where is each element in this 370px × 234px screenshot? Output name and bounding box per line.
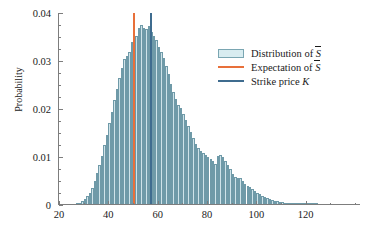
chart-legend: Distribution of S Expectation of S Strik… (218, 46, 321, 88)
x-tick-minor (281, 203, 282, 205)
x-tick-minor (133, 203, 134, 205)
x-tick-label: 40 (103, 209, 114, 220)
y-tick-label: 0.02 (33, 104, 51, 115)
histogram-bars (59, 13, 360, 205)
x-tick (158, 201, 159, 205)
legend-item-strike: Strike price K (218, 74, 321, 88)
y-tick (59, 205, 63, 206)
x-tick (306, 201, 307, 205)
histogram-figure: Probability 20406080100120 00.010.020.03… (0, 0, 370, 234)
y-tick-minor (59, 193, 61, 194)
y-tick-minor (59, 97, 61, 98)
y-tick-label: 0.03 (33, 56, 51, 67)
x-tick-minor (182, 203, 183, 205)
y-tick (59, 61, 63, 62)
y-axis-label: Probability (13, 40, 24, 140)
y-tick-minor (59, 145, 61, 146)
legend-swatch-expectation (218, 66, 244, 68)
y-tick (59, 109, 63, 110)
x-tick-label: 80 (202, 209, 213, 220)
y-tick-label: 0.04 (33, 8, 51, 19)
x-axis-line (58, 204, 360, 205)
y-tick-minor (59, 73, 61, 74)
s-bar-symbol: S (315, 60, 320, 74)
y-tick-minor (59, 85, 61, 86)
x-tick (256, 201, 257, 205)
x-tick-minor (330, 203, 331, 205)
y-tick (59, 157, 63, 158)
y-tick-minor (59, 37, 61, 38)
plot-area: 20406080100120 00.010.020.030.04 (58, 13, 360, 205)
y-tick (59, 13, 63, 14)
legend-item-expectation: Expectation of S (218, 60, 321, 74)
legend-label-distribution: Distribution of S (251, 46, 321, 60)
x-tick-minor (355, 203, 356, 205)
x-tick-label: 60 (152, 209, 163, 220)
x-tick-minor (232, 203, 233, 205)
y-tick-minor (59, 49, 61, 50)
y-tick-minor (59, 169, 61, 170)
s-bar-symbol: S (316, 46, 321, 60)
legend-item-distribution: Distribution of S (218, 46, 321, 60)
x-tick-label: 120 (298, 209, 314, 220)
legend-swatch-distribution (218, 49, 244, 58)
x-tick-label: 20 (54, 209, 65, 220)
legend-label-expectation: Expectation of S (251, 60, 320, 74)
y-tick-minor (59, 25, 61, 26)
y-tick-minor (59, 121, 61, 122)
y-tick-label: 0 (46, 200, 51, 211)
legend-swatch-strike (218, 80, 244, 82)
x-tick (207, 201, 208, 205)
y-tick-minor (59, 181, 61, 182)
expectation-marker-line (133, 13, 135, 205)
legend-label-strike: Strike price K (251, 75, 309, 88)
x-tick-label: 100 (249, 209, 265, 220)
x-tick-minor (84, 203, 85, 205)
k-symbol: K (302, 76, 309, 87)
x-tick (108, 201, 109, 205)
y-tick-label: 0.01 (33, 152, 51, 163)
y-tick-minor (59, 133, 61, 134)
strike-price-marker-line (150, 13, 152, 205)
